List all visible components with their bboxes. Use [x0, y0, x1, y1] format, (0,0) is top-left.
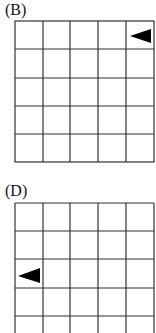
panel-d-grid — [0, 0, 156, 333]
triangle-left-icon — [18, 268, 40, 283]
